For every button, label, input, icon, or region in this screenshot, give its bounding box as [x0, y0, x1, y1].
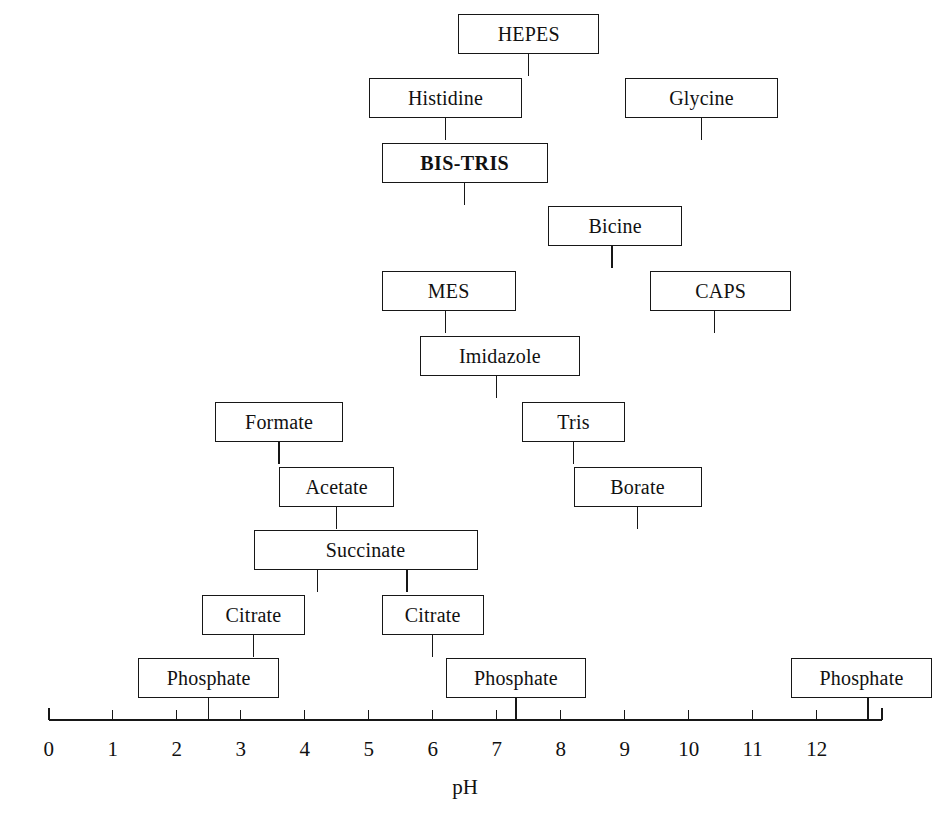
buffer-box: CAPS — [650, 271, 791, 311]
buffer-label: Phosphate — [817, 668, 905, 688]
buffer-label: Glycine — [667, 88, 736, 108]
ph-axis-tick-label: 8 — [555, 739, 566, 760]
buffer-box: HEPES — [458, 14, 599, 54]
pka-stem — [528, 54, 529, 76]
buffer-box: Tris — [522, 402, 624, 442]
pka-stem — [701, 118, 702, 140]
ph-axis-start-cap — [48, 708, 50, 720]
pka-stem — [573, 442, 574, 464]
pka-stem — [714, 311, 715, 333]
buffer-box: Borate — [574, 467, 702, 507]
ph-axis-tick — [240, 710, 242, 720]
buffer-label: Citrate — [403, 605, 463, 625]
buffer-box: Imidazole — [420, 336, 580, 376]
ph-axis-tick-label: 12 — [806, 739, 827, 760]
pka-stem — [406, 570, 407, 592]
buffer-label: Succinate — [324, 540, 408, 560]
ph-axis-tick-label: 9 — [619, 739, 630, 760]
ph-axis-tick — [624, 710, 626, 720]
ph-axis-tick-label: 6 — [427, 739, 438, 760]
ph-axis-tick — [112, 710, 114, 720]
pka-stem — [515, 698, 516, 720]
pka-stem — [278, 442, 279, 464]
ph-axis-tick-label: 0 — [43, 739, 54, 760]
buffer-box: Succinate — [254, 530, 478, 570]
buffer-label: Imidazole — [457, 346, 543, 366]
ph-axis-tick — [304, 710, 306, 720]
pka-stem — [867, 698, 868, 720]
ph-axis-tick — [432, 710, 434, 720]
buffer-box: Phosphate — [791, 658, 932, 698]
ph-axis-tick-label: 3 — [235, 739, 246, 760]
buffer-box: BIS-TRIS — [382, 143, 548, 183]
pka-stem — [445, 311, 446, 333]
pka-stem — [464, 183, 465, 205]
pka-stem — [445, 118, 446, 140]
ph-axis-end-cap — [881, 708, 883, 720]
buffer-label: Tris — [555, 412, 591, 432]
pka-stem — [317, 570, 318, 592]
ph-axis-tick-label: 5 — [363, 739, 374, 760]
buffer-box: Histidine — [369, 78, 523, 118]
buffer-box: Phosphate — [446, 658, 587, 698]
buffer-box: Formate — [215, 402, 343, 442]
pka-stem — [496, 376, 497, 398]
buffer-label: Borate — [608, 477, 667, 497]
pka-stem — [637, 507, 638, 529]
buffer-box: Glycine — [625, 78, 779, 118]
ph-axis-tick — [688, 710, 690, 720]
buffer-box: Phosphate — [138, 658, 279, 698]
buffer-box: Citrate — [382, 595, 484, 635]
pka-stem — [611, 246, 612, 268]
ph-axis-tick — [368, 710, 370, 720]
ph-axis-tick-label: 11 — [743, 739, 763, 760]
pka-stem — [208, 698, 209, 720]
ph-axis-line — [49, 719, 882, 721]
buffer-label: Phosphate — [472, 668, 560, 688]
buffer-box: MES — [382, 271, 516, 311]
ph-axis-tick-label: 2 — [171, 739, 182, 760]
ph-axis-tick-label: 7 — [491, 739, 502, 760]
ph-axis-tick-label: 4 — [299, 739, 310, 760]
buffer-label: CAPS — [693, 281, 748, 301]
pka-stem — [253, 635, 254, 657]
pka-stem — [336, 507, 337, 529]
buffer-box: Citrate — [202, 595, 304, 635]
ph-axis-tick — [176, 710, 178, 720]
buffer-label: MES — [426, 281, 472, 301]
ph-axis-tick — [816, 710, 818, 720]
ph-axis-title: pH — [452, 777, 478, 798]
ph-axis-tick-label: 1 — [107, 739, 118, 760]
buffer-box: Acetate — [279, 467, 394, 507]
pka-stem — [432, 635, 433, 657]
buffer-label: BIS-TRIS — [418, 153, 511, 173]
buffer-label: HEPES — [496, 24, 562, 44]
buffer-label: Acetate — [303, 477, 369, 497]
buffer-label: Formate — [243, 412, 315, 432]
buffer-label: Citrate — [224, 605, 284, 625]
ph-axis-tick — [496, 710, 498, 720]
ph-axis-tick — [752, 710, 754, 720]
buffer-label: Phosphate — [165, 668, 253, 688]
ph-axis-tick — [560, 710, 562, 720]
buffer-box: Bicine — [548, 206, 682, 246]
buffer-label: Histidine — [406, 88, 485, 108]
ph-axis-tick-label: 10 — [678, 739, 699, 760]
buffer-label: Bicine — [586, 216, 643, 236]
